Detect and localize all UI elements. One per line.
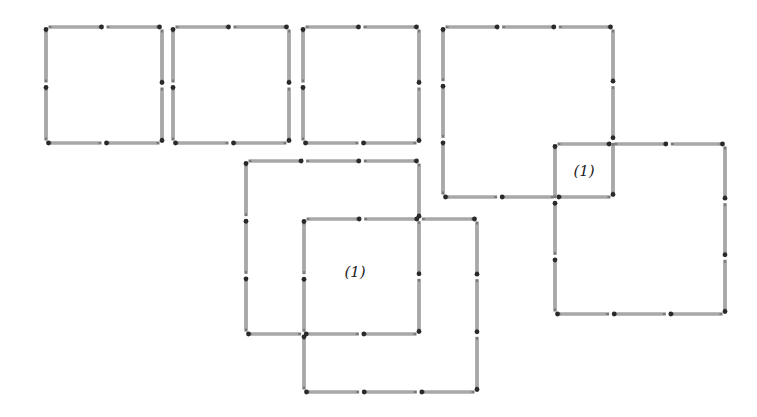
corner-square-a-bottom [556,195,610,200]
match-head-icon [287,80,292,85]
match-head-icon [612,312,617,317]
small-square-3-left [301,85,306,140]
match-head-icon [723,252,728,257]
match-head-icon [414,217,419,222]
overlap-label-right: (1) [573,162,594,180]
small-square-2-bottom [173,141,228,146]
corner-square-b-top [671,142,725,147]
corner-square-a-right [611,143,616,197]
match-head-icon [419,390,424,395]
match-head-icon [287,138,292,143]
corner-square-a-left [441,27,446,81]
match-head-icon [171,85,176,90]
match-head-icon [361,141,366,146]
match-head-icon [475,329,480,334]
corner-square-b-top [558,142,612,147]
match-head-icon [441,84,446,89]
match-head-icon [301,85,306,90]
small-square-1-bottom [46,141,101,146]
corner-square-b-bottom [612,312,666,317]
match-head-icon [244,219,249,224]
corner-square-a-top [446,25,500,30]
match-head-icon [244,276,249,281]
match-head-icon [299,159,304,164]
overlap-square-b-right [475,279,480,334]
match-head-icon [611,79,616,84]
match-head-icon [475,387,480,392]
overlap-square-b-top [422,217,477,222]
match-head-icon [226,25,231,30]
match-head-icon [302,277,307,282]
match-head-icon [723,196,728,201]
corner-square-a-bottom [500,195,554,200]
match-head-icon [356,25,361,30]
small-square-1-right [160,30,165,85]
small-square-1-bottom [104,141,159,146]
small-square-2-top [234,25,289,30]
match-head-icon [244,161,249,166]
small-square-1-top [49,25,104,30]
overlap-label-lower-left: (1) [344,263,365,281]
corner-square-b-top [614,142,668,147]
match-head-icon [302,334,307,339]
match-head-icon [357,217,362,222]
match-head-icon [304,390,309,395]
small-square-3-top [306,25,361,30]
overlap-square-b-bottom [362,390,417,395]
small-square-1-top [107,25,162,30]
match-head-icon [417,329,422,334]
small-square-3-right [417,88,422,143]
small-square-3-bottom [361,141,416,146]
match-head-icon [441,27,446,32]
match-head-icon [551,25,556,30]
small-square-2-right [287,30,292,85]
match-head-icon [302,219,307,224]
corner-square-b-left [553,144,558,198]
match-head-icon [417,80,422,85]
match-head-icon [246,332,251,337]
corner-square-a-left [441,84,446,138]
match-head-icon [611,192,616,197]
corner-square-b-bottom [555,312,609,317]
corner-square-a-top [559,25,613,30]
match-head-icon [495,25,500,30]
match-head-icon [356,159,361,164]
match-head-icon [44,27,49,32]
match-head-icon [443,195,448,200]
small-square-2-left [171,27,176,82]
match-head-icon [723,309,728,314]
overlap-square-b-top [364,217,419,222]
overlap-square-a-top [249,159,304,164]
overlap-square-b-right [475,337,480,392]
match-head-icon [173,141,178,146]
match-head-icon [611,135,616,140]
match-head-icon [301,27,306,32]
match-head-icon [104,141,109,146]
corner-square-b-bottom [668,312,722,317]
small-square-1-left [44,27,49,82]
match-head-icon [414,25,419,30]
corner-square-a-right [611,30,616,84]
small-square-2-left [171,85,176,140]
match-head-icon [362,390,367,395]
match-head-icon [361,332,366,337]
corner-square-a-top [502,25,556,30]
small-square-1-right [160,88,165,143]
match-head-icon [414,159,419,164]
match-head-icon [99,25,104,30]
overlap-square-a-right [417,279,422,334]
small-square-3-bottom [303,141,358,146]
match-head-icon [553,257,558,262]
match-head-icon [303,141,308,146]
corner-square-b-left [553,257,558,311]
overlap-square-a-bottom [304,332,359,337]
match-head-icon [417,138,422,143]
match-head-icon [553,201,558,206]
match-head-icon [417,271,422,276]
match-head-icon [44,85,49,90]
match-head-icon [608,25,613,30]
overlap-square-a-top [306,159,361,164]
overlap-square-b-right [475,222,480,277]
small-square-3-top [364,25,419,30]
match-head-icon [607,142,612,147]
